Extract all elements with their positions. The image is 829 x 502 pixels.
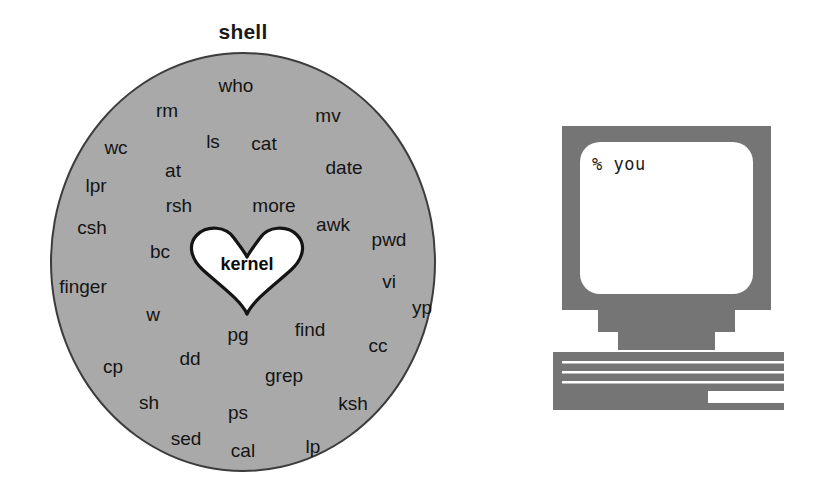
command-label-lpr: lpr [85,176,106,195]
command-label-lp: lp [306,437,321,456]
command-label-w: w [146,305,160,324]
command-label-cp: cp [103,357,123,376]
command-label-pwd: pwd [372,230,407,249]
keyboard-row-line [562,361,784,364]
monitor-stand-icon [598,310,735,350]
command-label-rsh: rsh [166,196,192,215]
kernel-heart: kernel [186,226,308,318]
command-label-yp: yp [412,298,432,317]
diagram-canvas: shell whormmvwclscatatdatelprrshmorecsha… [0,0,829,502]
command-label-cc: cc [369,336,388,355]
command-label-date: date [326,158,363,177]
computer-illustration: % you [540,118,790,418]
command-label-ls: ls [206,132,220,151]
command-label-ps: ps [228,403,248,422]
command-label-finger: finger [59,277,107,296]
terminal-prompt-text: % you [592,154,646,174]
command-label-csh: csh [77,218,107,237]
command-label-pg: pg [227,325,248,344]
command-label-wc: wc [104,138,127,157]
keyboard-row-line [562,381,784,384]
kernel-label: kernel [186,254,308,275]
command-label-ksh: ksh [338,394,368,413]
keyboard-row-line [562,371,784,374]
command-label-cal: cal [231,441,255,460]
command-label-at: at [165,161,181,180]
command-label-grep: grep [265,366,303,385]
command-label-sed: sed [171,429,202,448]
command-label-who: who [219,76,254,95]
command-label-vi: vi [382,272,396,291]
command-label-bc: bc [150,242,170,261]
command-label-more: more [252,196,295,215]
command-label-find: find [295,320,326,339]
keyboard-spacebar [708,391,784,403]
command-label-mv: mv [315,106,340,125]
command-label-rm: rm [156,101,178,120]
command-label-awk: awk [316,215,350,234]
command-label-sh: sh [139,393,159,412]
command-label-cat: cat [251,134,276,153]
shell-label: shell [0,20,486,44]
command-label-dd: dd [179,349,200,368]
